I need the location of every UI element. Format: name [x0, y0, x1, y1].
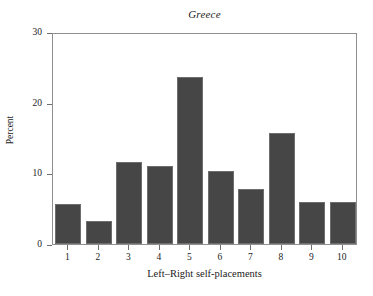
x-tick-mark	[128, 245, 129, 250]
bar	[55, 204, 81, 244]
x-axis: 12345678910	[52, 245, 357, 269]
x-tick-mark	[159, 245, 160, 250]
x-tick-label: 5	[176, 252, 202, 262]
bar	[116, 162, 142, 244]
x-tick-label: 10	[329, 252, 355, 262]
x-tick-label: 1	[54, 252, 80, 262]
y-axis-title: Percent	[5, 102, 15, 158]
plot-area	[53, 34, 356, 244]
x-tick-mark	[67, 245, 68, 250]
bar	[177, 77, 203, 244]
x-tick-mark	[311, 245, 312, 250]
x-axis-title: Left–Right self-placements	[52, 268, 357, 279]
bar	[269, 133, 295, 244]
x-tick-mark	[189, 245, 190, 250]
chart-title: Greece	[52, 8, 357, 20]
x-tick-label: 6	[207, 252, 233, 262]
bar	[208, 171, 234, 244]
y-tick-label: 0	[20, 240, 42, 250]
bar	[299, 202, 325, 244]
bar	[330, 202, 356, 244]
x-tick-label: 9	[298, 252, 324, 262]
x-tick-label: 2	[85, 252, 111, 262]
x-tick-mark	[281, 245, 282, 250]
plot-frame	[52, 33, 357, 245]
x-tick-mark	[250, 245, 251, 250]
x-tick-label: 4	[146, 252, 172, 262]
chart-figure: Greece Percent 0102030 12345678910 Left–…	[0, 0, 373, 296]
y-axis: Percent 0102030	[0, 33, 52, 245]
y-tick-label: 10	[20, 169, 42, 179]
y-tick-label: 30	[20, 28, 42, 38]
x-tick-label: 3	[115, 252, 141, 262]
x-tick-mark	[98, 245, 99, 250]
x-tick-mark	[220, 245, 221, 250]
bar	[86, 221, 112, 244]
x-tick-label: 7	[237, 252, 263, 262]
bar	[238, 189, 264, 244]
x-tick-label: 8	[268, 252, 294, 262]
y-tick-label: 20	[20, 99, 42, 109]
x-tick-mark	[342, 245, 343, 250]
bar	[147, 166, 173, 244]
